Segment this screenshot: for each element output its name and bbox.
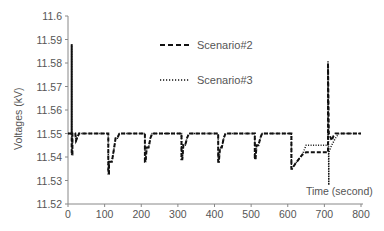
x-tick-label: 500	[242, 208, 260, 220]
plot-lines	[68, 44, 361, 185]
x-tick-label: 100	[96, 208, 114, 220]
x-tick-label: 300	[169, 208, 187, 220]
x-tick-label: 800	[352, 208, 370, 220]
y-tick-label: 11.56	[37, 104, 63, 116]
series-line-scenario2	[68, 44, 361, 173]
x-axis-label: Time (second)	[306, 185, 373, 197]
y-tick-label: 11.58	[37, 57, 63, 69]
x-tick-label: 200	[132, 208, 150, 220]
y-tick-label: 11.54	[37, 151, 63, 163]
x-tick-label: 400	[206, 208, 224, 220]
y-tick-label: 11.55	[37, 128, 63, 140]
legend-label-scenario2: Scenario#2	[197, 39, 253, 51]
y-tick-label: 11.52	[37, 198, 63, 210]
y-tick-label: 11.59	[37, 34, 63, 46]
y-tick-label: 11.53	[37, 175, 63, 187]
y-tick-label: 11.57	[37, 81, 63, 93]
x-tick-label: 700	[316, 208, 334, 220]
y-axis-label: Voltages (kV)	[12, 88, 24, 150]
voltage-chart: 11.5211.5311.5411.5511.5611.5711.5811.59…	[0, 0, 384, 231]
chart-canvas: 11.5211.5311.5411.5511.5611.5711.5811.59…	[0, 0, 384, 231]
legend: Scenario#2 Scenario#3	[160, 39, 253, 86]
series-line-scenario3	[68, 44, 361, 185]
y-tick-label: 11.6	[42, 10, 62, 22]
x-tick-label: 600	[279, 208, 297, 220]
x-tick-label: 0	[65, 208, 71, 220]
legend-label-scenario3: Scenario#3	[197, 74, 253, 86]
